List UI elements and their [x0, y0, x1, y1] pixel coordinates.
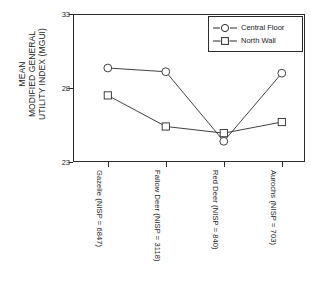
legend-marker-square-icon	[212, 35, 238, 47]
series-line	[108, 68, 282, 141]
legend-entry-central-floor: Central Floor	[212, 21, 298, 34]
data-point-square	[162, 123, 169, 130]
data-point-circle	[220, 137, 228, 145]
legend-label-north-wall: North Wall	[241, 36, 276, 45]
series-central-floor	[104, 64, 286, 145]
data-point-square	[220, 130, 227, 137]
data-point-circle	[162, 68, 170, 76]
legend-entry-north-wall: North Wall	[212, 34, 298, 47]
data-point-circle	[278, 69, 286, 77]
series-north-wall	[104, 92, 285, 137]
legend-label-central-floor: Central Floor	[241, 23, 284, 32]
chart-legend: Central Floor North Wall	[208, 16, 303, 52]
data-point-square	[278, 118, 285, 125]
series-line	[108, 95, 282, 133]
data-point-square	[104, 92, 111, 99]
legend-marker-circle-icon	[212, 22, 238, 34]
chart-figure: MEAN MODIFIED GENERAL UTILITY INDEX (MGU…	[0, 0, 320, 296]
data-point-circle	[104, 64, 112, 72]
